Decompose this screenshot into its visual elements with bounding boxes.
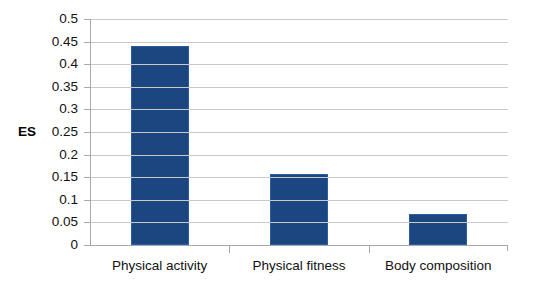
gridline — [90, 155, 508, 156]
y-axis-tick — [84, 132, 90, 133]
y-tick-label: 0 — [70, 238, 78, 252]
gridline — [90, 245, 508, 246]
y-axis-tick — [84, 155, 90, 156]
plot-area — [90, 19, 508, 245]
gridline — [90, 200, 508, 201]
y-tick-label: 0.05 — [52, 215, 78, 229]
y-tick-label: 0.25 — [52, 125, 78, 139]
x-axis-end-tick — [507, 245, 508, 251]
y-axis-line — [90, 19, 91, 246]
y-axis-tick — [84, 222, 90, 223]
x-category-label: Physical fitness — [229, 258, 368, 274]
y-axis-tick — [84, 64, 90, 65]
gridline — [90, 177, 508, 178]
y-tick-label: 0.4 — [59, 57, 78, 71]
gridline — [90, 132, 508, 133]
gridline — [90, 222, 508, 223]
bar-physical-activity — [131, 46, 189, 245]
y-axis-tick — [84, 200, 90, 201]
y-axis-tick — [84, 245, 90, 246]
gridline — [90, 42, 508, 43]
y-tick-label: 0.2 — [59, 148, 78, 162]
bar-physical-fitness — [270, 174, 328, 245]
bar-body-composition — [409, 214, 467, 245]
x-axis-tick — [229, 246, 230, 253]
gridline — [90, 64, 508, 65]
x-axis-tick — [369, 246, 370, 253]
gridline — [90, 19, 508, 20]
y-axis-tick — [84, 177, 90, 178]
y-axis-tick — [84, 19, 90, 20]
gridline — [90, 87, 508, 88]
gridline — [90, 109, 508, 110]
y-axis-tick — [84, 109, 90, 110]
y-tick-label: 0.3 — [59, 102, 78, 116]
x-category-label: Physical activity — [90, 258, 229, 274]
y-tick-label: 0.35 — [52, 80, 78, 94]
bar-chart: ES 0.5 0.45 0.4 0.35 0.3 0.25 0.2 0.15 0… — [0, 0, 535, 294]
y-tick-label: 0.5 — [59, 12, 78, 26]
y-axis-tick — [84, 87, 90, 88]
x-category-label: Body composition — [369, 258, 508, 274]
y-axis-title: ES — [18, 125, 36, 139]
y-tick-label: 0.1 — [59, 193, 78, 207]
y-tick-label: 0.15 — [52, 170, 78, 184]
y-axis-tick — [84, 42, 90, 43]
y-tick-label: 0.45 — [52, 35, 78, 49]
